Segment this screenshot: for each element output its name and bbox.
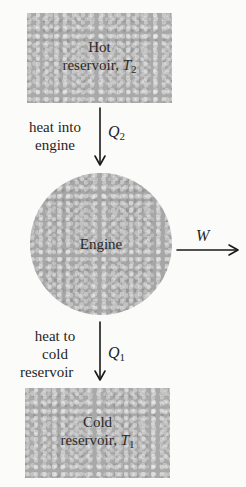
heat-out-caption: heat to cold reservoir (18, 327, 92, 381)
heat-in-arrow-icon (95, 108, 105, 165)
work-symbol: W (196, 227, 209, 245)
hot-reservoir: Hot reservoir, T2 (27, 13, 172, 103)
cold-reservoir-subtitle: reservoir, T1 (60, 431, 134, 453)
q2-symbol: Q2 (108, 123, 125, 142)
heat-out-caption-line3: reservoir (20, 363, 92, 381)
work-out-arrow-icon (177, 245, 238, 255)
q1-letter: Q (108, 344, 120, 361)
q2-letter: Q (108, 123, 120, 140)
heat-in-caption: heat into engine (18, 118, 92, 154)
q1-symbol: Q1 (108, 344, 125, 363)
q1-subscript: 1 (120, 351, 126, 363)
hot-temp-symbol: T (123, 57, 131, 73)
hot-reservoir-text: reservoir, (62, 57, 122, 73)
engine-circle: Engine (30, 173, 172, 315)
heat-out-arrow-icon (95, 322, 105, 380)
heat-in-caption-line1: heat into (18, 118, 92, 136)
engine-label: Engine (80, 236, 123, 253)
hot-temp-subscript: 2 (131, 63, 137, 75)
hot-reservoir-subtitle: reservoir, T2 (62, 56, 136, 78)
cold-reservoir-title: Cold (83, 413, 112, 431)
work-letter: W (196, 227, 209, 244)
heat-out-caption-line1: heat to (18, 327, 92, 345)
cold-reservoir-text: reservoir, (60, 432, 120, 448)
cold-temp-symbol: T (121, 432, 129, 448)
cold-temp-subscript: 1 (129, 438, 135, 450)
cold-reservoir: Cold reservoir, T1 (25, 388, 170, 478)
heat-out-caption-line2: cold (18, 345, 92, 363)
q2-subscript: 2 (120, 130, 126, 142)
heat-in-caption-line2: engine (18, 136, 92, 154)
hot-reservoir-title: Hot (88, 38, 111, 56)
